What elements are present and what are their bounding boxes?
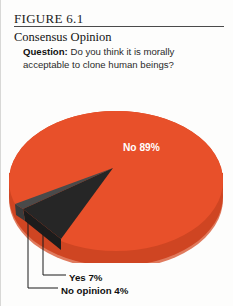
slice-label-no: No 89% xyxy=(123,142,160,153)
figure-divider-rule xyxy=(14,26,224,27)
question-block: Question: Do you think it is morally acc… xyxy=(23,46,223,71)
callout-label-yes: Yes 7% xyxy=(69,272,102,283)
figure-label-text: FIGURE 6.1 xyxy=(14,11,83,26)
callout-label-no-opinion: No opinion 4% xyxy=(61,285,128,296)
question-label: Question: xyxy=(23,46,68,57)
page-title: Consensus Opinion xyxy=(14,30,112,45)
figure-page: FIGURE 6.1 Consensus Opinion Question: D… xyxy=(0,0,233,306)
pie-chart: No 89% xyxy=(1,78,233,263)
figure-label: FIGURE 6.1 xyxy=(14,11,83,27)
